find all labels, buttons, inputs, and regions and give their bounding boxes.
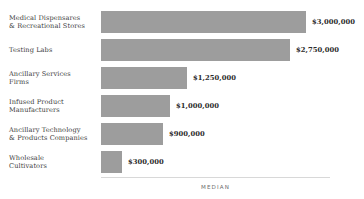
bar-category-label-line1: Ancillary Services bbox=[9, 70, 97, 78]
bar-chart: Medical Dispensares & Recreational Store… bbox=[0, 0, 364, 199]
bar-category-label-line1: Testing Labs bbox=[9, 46, 97, 54]
bar bbox=[101, 95, 170, 117]
x-axis-line bbox=[101, 177, 330, 178]
bar-value-label: $2,750,000 bbox=[296, 46, 339, 54]
bar-track: $300,000 bbox=[101, 151, 164, 173]
bar-category-label: Ancillary Technology & Products Companie… bbox=[9, 126, 97, 142]
bar bbox=[101, 11, 306, 33]
bar-category-label-line1: Medical Dispensares bbox=[9, 14, 97, 22]
table-row: Medical Dispensares & Recreational Store… bbox=[0, 8, 364, 36]
bar-value-label: $300,000 bbox=[128, 158, 164, 166]
bar-track: $3,000,000 bbox=[101, 11, 355, 33]
bar-category-label-line2: Cultivators bbox=[9, 162, 97, 170]
table-row: Ancillary Services Firms $1,250,000 bbox=[0, 64, 364, 92]
bar-category-label: Testing Labs bbox=[9, 46, 97, 54]
table-row: Infused Product Manufacturers $1,000,000 bbox=[0, 92, 364, 120]
bar-category-label-line2: & Recreational Stores bbox=[9, 22, 97, 30]
bar-category-label-line2: Manufacturers bbox=[9, 106, 97, 114]
bar-value-label: $900,000 bbox=[169, 130, 205, 138]
bar-category-label-line1: Ancillary Technology bbox=[9, 126, 97, 134]
bar bbox=[101, 151, 122, 173]
bar-category-label-line1: Wholesale bbox=[9, 154, 97, 162]
bar-category-label: Wholesale Cultivators bbox=[9, 154, 97, 170]
bar-value-label: $3,000,000 bbox=[312, 18, 355, 26]
x-axis-title: MEDIAN bbox=[101, 184, 330, 190]
bar-track: $900,000 bbox=[101, 123, 205, 145]
table-row: Ancillary Technology & Products Companie… bbox=[0, 120, 364, 148]
bar-value-label: $1,250,000 bbox=[193, 74, 236, 82]
bar bbox=[101, 39, 290, 61]
bar-category-label-line2: Firms bbox=[9, 78, 97, 86]
bar-track: $1,000,000 bbox=[101, 95, 219, 117]
table-row: Testing Labs $2,750,000 bbox=[0, 36, 364, 64]
bar bbox=[101, 67, 187, 89]
bar bbox=[101, 123, 163, 145]
bar-category-label: Ancillary Services Firms bbox=[9, 70, 97, 86]
bar-track: $1,250,000 bbox=[101, 67, 236, 89]
bar-category-label-line2: & Products Companies bbox=[9, 134, 97, 142]
bar-category-label-line1: Infused Product bbox=[9, 98, 97, 106]
chart-plot-area: Medical Dispensares & Recreational Store… bbox=[0, 0, 364, 177]
bar-track: $2,750,000 bbox=[101, 39, 339, 61]
bar-value-label: $1,000,000 bbox=[176, 102, 219, 110]
bar-category-label: Infused Product Manufacturers bbox=[9, 98, 97, 114]
table-row: Wholesale Cultivators $300,000 bbox=[0, 148, 364, 176]
bar-category-label: Medical Dispensares & Recreational Store… bbox=[9, 14, 97, 30]
